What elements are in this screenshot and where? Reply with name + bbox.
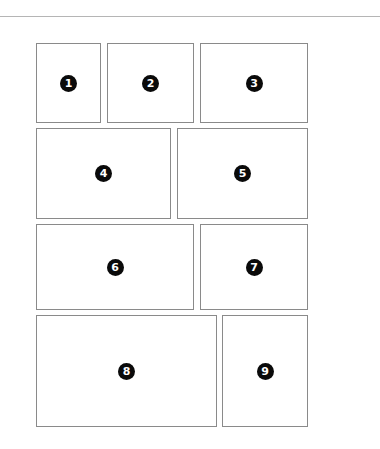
panel-number-badge: 5 [234,165,251,182]
panel-number-badge: 7 [246,259,263,276]
panel-5: 5 [177,128,308,219]
panel-number-badge: 6 [107,259,124,276]
panel-9: 9 [222,315,308,427]
panel-3: 3 [200,43,308,123]
panel-6: 6 [36,224,194,310]
panel-number-badge: 8 [118,363,135,380]
panel-7: 7 [200,224,308,310]
top-divider-line [0,16,380,17]
panel-1: 1 [36,43,101,123]
panel-8: 8 [36,315,217,427]
panel-number-badge: 2 [142,75,159,92]
panel-2: 2 [107,43,194,123]
panel-4: 4 [36,128,171,219]
panel-number-badge: 4 [95,165,112,182]
panel-number-badge: 1 [60,75,77,92]
panel-number-badge: 3 [246,75,263,92]
panel-number-badge: 9 [257,363,274,380]
